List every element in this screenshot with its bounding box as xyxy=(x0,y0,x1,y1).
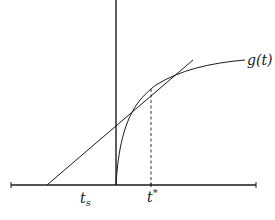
curve-g xyxy=(116,60,245,185)
tstar-label: t* xyxy=(147,190,158,204)
diagram-canvas xyxy=(0,0,275,220)
tstar-label-base: t xyxy=(147,189,153,205)
tstar-label-superscript: * xyxy=(153,187,158,198)
ts-label: ts xyxy=(80,191,91,205)
ts-label-subscript: s xyxy=(86,197,91,208)
curve-label-text: g(t) xyxy=(247,52,273,68)
curve-label: g(t) xyxy=(247,53,273,67)
ts-label-base: t xyxy=(80,190,86,206)
tangent-line xyxy=(47,60,193,185)
